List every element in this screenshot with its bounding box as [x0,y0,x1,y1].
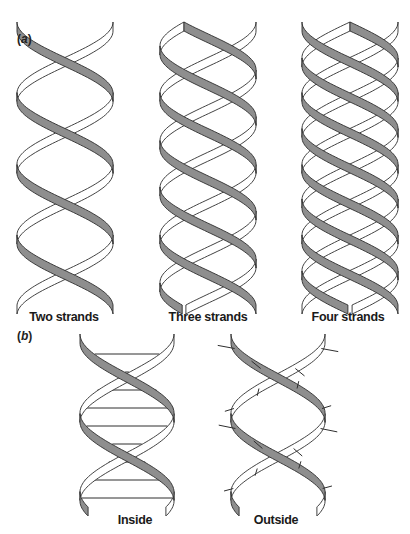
panel-a-label-close: ) [28,32,32,46]
panel-a-helices [17,22,398,314]
panel-b-label: (b) [17,329,32,343]
helix-b-0 [80,334,174,516]
ribbon-front [302,93,398,174]
ribbon-front [302,165,398,245]
caption-outside: Outside [254,513,298,527]
base-tick [321,429,338,432]
ribbon-front [302,22,398,102]
ribbon-front [302,235,398,314]
panel-b-helices [80,334,338,516]
caption-four-strands: Four strands [312,310,385,324]
ribbon-front [17,165,113,245]
ribbon-front [17,235,113,314]
helix-b-1 [218,334,338,516]
helix-a-1 [160,22,256,314]
panel-a-label-letter: a [21,32,28,46]
ribbon-front [17,93,113,174]
bases-outside [218,345,338,491]
ribbon-front [302,129,398,209]
panel-a-label: (a) [17,32,32,46]
ribbon-front [80,414,174,501]
ribbon-front [302,199,398,280]
helix-a-0 [17,22,113,314]
panel-b-label-close: ) [28,329,32,343]
ribbon-front [231,334,325,423]
ribbon-front [231,414,325,501]
base-tick [321,349,338,352]
ribbon-front [302,58,398,138]
caption-inside: Inside [118,513,152,527]
helix-a-2 [302,22,398,314]
caption-two-strands: Two strands [29,310,98,324]
ribbon-front [80,334,174,423]
helix-diagram-canvas [0,0,410,534]
caption-three-strands: Three strands [169,310,248,324]
ribbon-back [160,22,184,55]
